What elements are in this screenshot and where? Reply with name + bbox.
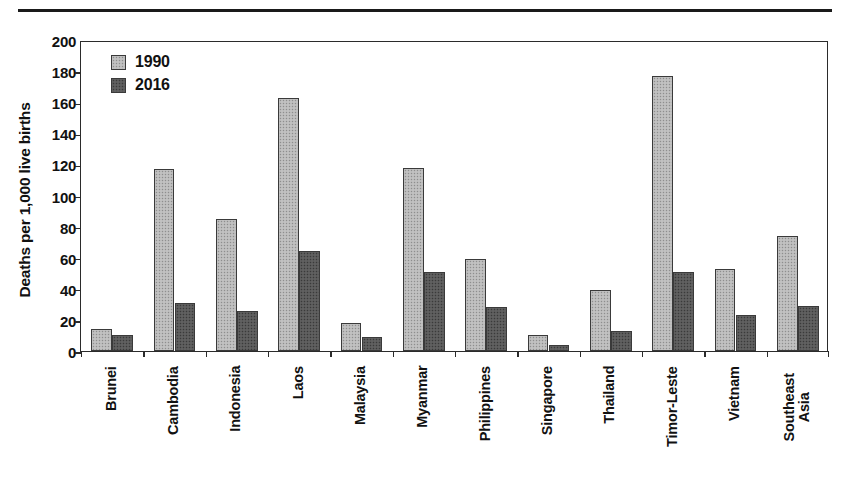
x-axis-label-Thailand: Thailand xyxy=(579,358,641,490)
y-tick-label-200: 200 xyxy=(38,33,76,50)
legend-label-2016: 2016 xyxy=(135,76,170,94)
x-axis-label-text: Cambodia xyxy=(166,366,181,435)
x-axis-label-Southeast-Asia: Southeast Asia xyxy=(766,358,828,490)
x-axis-label-Vietnam: Vietnam xyxy=(703,358,765,490)
bar-group xyxy=(704,42,766,351)
x-tick-mark xyxy=(206,351,207,357)
x-axis-label-Myanmar: Myanmar xyxy=(392,358,454,490)
bar-2016-Vietnam[interactable] xyxy=(736,315,757,351)
x-axis-label-text: Laos xyxy=(290,366,305,399)
y-tick-label-0: 0 xyxy=(38,344,76,361)
chart-figure: Deaths per 1,000 live births 02040608010… xyxy=(0,0,849,497)
top-rule-divider xyxy=(18,9,832,12)
x-axis-label-text: Myanmar xyxy=(415,366,430,428)
bar-group xyxy=(393,42,455,351)
y-tick-label-20: 20 xyxy=(38,312,76,329)
chart-legend: 19902016 xyxy=(111,53,170,94)
bar-1990-Philippines[interactable] xyxy=(465,259,486,351)
bar-2016-Singapore[interactable] xyxy=(549,345,570,351)
y-tick-label-180: 180 xyxy=(38,64,76,81)
x-tick-mark xyxy=(143,351,144,357)
x-axis-label-Malaysia: Malaysia xyxy=(329,358,391,490)
y-axis-title-text: Deaths per 1,000 live births xyxy=(16,102,34,297)
x-axis-label-text: Singapore xyxy=(540,366,555,435)
bar-1990-Brunei[interactable] xyxy=(91,329,112,351)
y-tick-label-80: 80 xyxy=(38,219,76,236)
bar-1990-Vietnam[interactable] xyxy=(715,269,736,351)
x-tick-mark xyxy=(704,351,705,357)
y-tick-mark-120 xyxy=(75,166,81,167)
bar-group xyxy=(330,42,392,351)
legend-label-1990: 1990 xyxy=(135,53,170,71)
x-axis-label-Brunei: Brunei xyxy=(80,358,142,490)
y-tick-label-160: 160 xyxy=(38,95,76,112)
y-tick-label-100: 100 xyxy=(38,188,76,205)
y-tick-label-60: 60 xyxy=(38,250,76,267)
bar-1990-Timor-Leste[interactable] xyxy=(652,76,673,351)
x-axis-label-text: Indonesia xyxy=(228,366,243,432)
y-axis-tick-labels: 020406080100120140160180200 xyxy=(38,41,76,352)
bar-2016-Malaysia[interactable] xyxy=(362,337,383,351)
bar-1990-Laos[interactable] xyxy=(278,98,299,351)
bar-1990-Malaysia[interactable] xyxy=(341,323,362,351)
x-tick-mark xyxy=(642,351,643,357)
y-tick-mark-140 xyxy=(75,135,81,136)
x-axis-label-Laos: Laos xyxy=(267,358,329,490)
x-tick-mark xyxy=(580,351,581,357)
bar-group xyxy=(642,42,704,351)
bar-2016-Indonesia[interactable] xyxy=(237,311,258,351)
bar-2016-Myanmar[interactable] xyxy=(424,272,445,351)
x-axis-label-Philippines: Philippines xyxy=(454,358,516,490)
x-axis-label-text: Malaysia xyxy=(353,366,368,425)
bar-1990-Indonesia[interactable] xyxy=(216,219,237,351)
y-tick-mark-20 xyxy=(75,321,81,322)
legend-item-1990[interactable]: 1990 xyxy=(111,53,170,71)
bar-1990-Thailand[interactable] xyxy=(590,290,611,351)
x-tick-mark xyxy=(828,351,829,357)
bar-group xyxy=(206,42,268,351)
bar-2016-Timor-Leste[interactable] xyxy=(673,272,694,351)
y-tick-mark-160 xyxy=(75,104,81,105)
y-tick-label-120: 120 xyxy=(38,157,76,174)
x-axis-tick-labels: BruneiCambodiaIndonesiaLaosMalaysiaMyanm… xyxy=(80,358,828,493)
bar-1990-Cambodia[interactable] xyxy=(154,169,175,351)
bar-group xyxy=(580,42,642,351)
bar-1990-Singapore[interactable] xyxy=(528,335,549,351)
bar-group xyxy=(767,42,829,351)
x-tick-mark xyxy=(455,351,456,357)
y-tick-mark-60 xyxy=(75,259,81,260)
plot-area: 19902016 xyxy=(80,41,828,352)
legend-swatch-1990 xyxy=(111,55,126,70)
y-tick-mark-80 xyxy=(75,228,81,229)
bar-1990-Myanmar[interactable] xyxy=(403,168,424,351)
x-axis-label-text: Brunei xyxy=(103,366,118,411)
x-tick-mark xyxy=(767,351,768,357)
legend-item-2016[interactable]: 2016 xyxy=(111,76,170,94)
bar-2016-Brunei[interactable] xyxy=(112,335,133,351)
x-axis-label-text: Southeast Asia xyxy=(781,373,812,441)
y-axis-title: Deaths per 1,000 live births xyxy=(8,70,42,330)
y-tick-mark-100 xyxy=(75,197,81,198)
x-axis-label-text: Vietnam xyxy=(727,366,742,421)
y-tick-mark-180 xyxy=(75,72,81,73)
bar-2016-Cambodia[interactable] xyxy=(175,303,196,351)
x-axis-label-text: Philippines xyxy=(477,366,492,441)
x-tick-mark xyxy=(268,351,269,357)
x-tick-mark xyxy=(517,351,518,357)
bar-group xyxy=(455,42,517,351)
y-tick-label-40: 40 xyxy=(38,281,76,298)
x-axis-label-Indonesia: Indonesia xyxy=(205,358,267,490)
bar-2016-Southeast-Asia[interactable] xyxy=(798,306,819,351)
x-tick-mark xyxy=(393,351,394,357)
x-tick-mark xyxy=(81,351,82,357)
bar-2016-Philippines[interactable] xyxy=(486,307,507,351)
bars-layer xyxy=(81,42,827,351)
y-tick-label-140: 140 xyxy=(38,126,76,143)
bar-2016-Thailand[interactable] xyxy=(611,331,632,351)
bar-1990-Southeast-Asia[interactable] xyxy=(777,236,798,351)
x-tick-mark xyxy=(330,351,331,357)
bar-group xyxy=(268,42,330,351)
y-tick-mark-40 xyxy=(75,290,81,291)
bar-2016-Laos[interactable] xyxy=(299,251,320,351)
x-axis-label-Cambodia: Cambodia xyxy=(142,358,204,490)
